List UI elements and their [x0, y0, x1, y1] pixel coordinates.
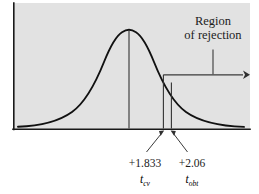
obtained-value-number-label: +2.06	[179, 157, 206, 169]
critical-value-number-label: +1.833	[129, 157, 162, 169]
figure-canvas: Region of rejection +1.833 tcv +2.06 tob…	[0, 0, 259, 194]
critical-value-pointer-line	[147, 134, 162, 152]
statistics-figure: Region of rejection +1.833 tcv +2.06 tob…	[0, 0, 259, 194]
region-of-rejection-label-line1: Region	[195, 14, 232, 28]
obtained-value-pointer-line	[174, 134, 188, 152]
obtained-value-subscript: obt	[189, 179, 200, 188]
obtained-value-symbol-label: tobt	[186, 173, 200, 188]
region-of-rejection-label-line2: of rejection	[184, 28, 242, 42]
critical-value-subscript: cv	[143, 179, 150, 188]
critical-value-symbol-label: tcv	[140, 173, 151, 188]
